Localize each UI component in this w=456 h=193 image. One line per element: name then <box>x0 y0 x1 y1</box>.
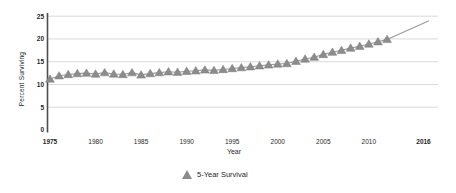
x-tick-label: 2000 <box>271 138 286 145</box>
y-tick-label: 0 <box>40 126 44 133</box>
chart-canvas: 0510152025197519801985199019952000200520… <box>0 0 456 165</box>
x-tick-label: 1990 <box>179 138 194 145</box>
x-tick-label: 1980 <box>88 138 103 145</box>
data-point-triangle <box>200 66 209 73</box>
triangle-marker-icon <box>182 170 192 179</box>
y-tick-label: 10 <box>37 81 45 88</box>
x-tick-label: 1985 <box>134 138 149 145</box>
legend-label: 5-Year Survival <box>197 170 248 179</box>
y-tick-label: 15 <box>37 58 45 65</box>
x-tick-label: 2005 <box>316 138 331 145</box>
y-axis-title: Percent Surviving <box>18 52 25 106</box>
x-axis-title: Year <box>227 148 241 155</box>
y-tick-label: 5 <box>40 104 44 111</box>
data-point-triangle <box>128 68 137 75</box>
y-tick-label: 20 <box>37 35 45 42</box>
five-year-survival-chart: 0510152025197519801985199019952000200520… <box>0 0 456 193</box>
legend: 5-Year Survival <box>182 170 248 179</box>
x-tick-label: 1975 <box>43 138 58 145</box>
x-tick-label: 2010 <box>362 138 377 145</box>
data-point-triangle <box>164 68 173 75</box>
data-point-triangle <box>82 69 91 76</box>
x-tick-label: 1995 <box>225 138 240 145</box>
x-tick-label: 2016 <box>416 138 431 145</box>
y-tick-label: 25 <box>37 13 45 20</box>
data-point-triangle <box>100 68 109 75</box>
